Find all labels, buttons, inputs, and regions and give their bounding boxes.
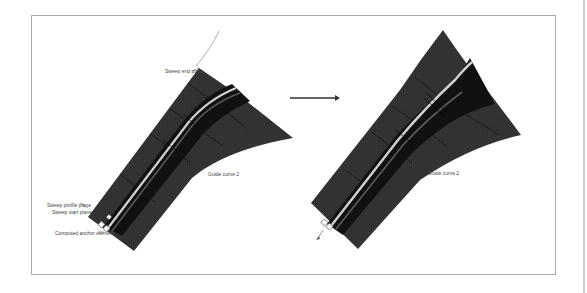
sweep-figure: [0, 0, 587, 293]
left-sweep-shape: [80, 31, 293, 251]
label-guide-curve-2-right: Guide curve 2: [428, 170, 459, 176]
label-guide-curve-2-left: Guide curve 2: [208, 171, 239, 177]
right-sweep-shape: [311, 30, 521, 249]
label-sweep-end-plane: Sweep end plane: [165, 68, 204, 74]
transform-arrow-icon: [290, 95, 340, 101]
guide-curve-1: [196, 31, 219, 66]
label-sweep-start-plane: Sweep start plane: [52, 209, 92, 215]
label-computed-anchor-element: Computed anchor element: [55, 230, 114, 236]
label-sweep-profile-plane: Sweep profile plane: [47, 202, 91, 208]
